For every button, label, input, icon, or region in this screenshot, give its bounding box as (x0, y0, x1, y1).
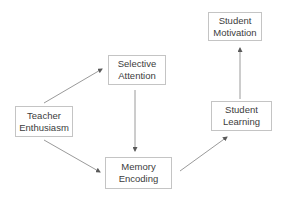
node-label-line2: Encoding (119, 173, 159, 185)
node-label-line1: Student (223, 104, 260, 116)
node-student-motivation: Student Motivation (208, 12, 262, 41)
edge-teacher-to-encoding (44, 140, 100, 172)
node-student-learning: Student Learning (211, 101, 272, 131)
node-teacher-enthusiasm: Teacher Enthusiasm (15, 106, 73, 137)
node-label-line1: Selective (118, 58, 157, 70)
node-label-line2: Enthusiasm (19, 122, 69, 134)
node-label-line1: Teacher (19, 110, 69, 122)
node-label-line1: Memory (119, 161, 159, 173)
edge-teacher-to-attention (44, 69, 102, 103)
diagram-canvas: Teacher Enthusiasm Selective Attention M… (0, 0, 287, 198)
node-memory-encoding: Memory Encoding (105, 157, 172, 189)
node-label-line2: Attention (118, 70, 157, 82)
node-label-line2: Motivation (213, 27, 256, 39)
node-selective-attention: Selective Attention (108, 55, 166, 85)
node-label-line1: Student (213, 15, 256, 27)
node-label-line2: Learning (223, 116, 260, 128)
edge-encoding-to-learning (180, 137, 227, 171)
